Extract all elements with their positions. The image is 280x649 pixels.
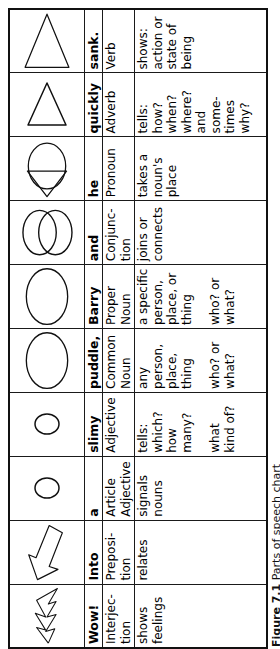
cell-word-5: Barry (85, 265, 103, 329)
cell-type-5: Proper Noun (103, 265, 135, 329)
part-of-speech-label: Common Noun (104, 332, 133, 389)
definition-text: tells: how? when? where? and some- times… (136, 76, 252, 133)
oval-icon (10, 265, 84, 328)
question-text: who? or what? (208, 268, 237, 325)
cell-icon-6 (9, 201, 85, 265)
cell-icon-8 (9, 73, 85, 137)
definition-text: a specific person, place, or thing (136, 268, 194, 325)
figure-caption-label: Figure 7.1 (270, 584, 280, 647)
table-row-part-of-speech: Interjec- tion Preposi- tion Article Adj… (103, 9, 135, 648)
small-circle-icon (10, 457, 84, 520)
cell-icon-5 (9, 265, 85, 329)
rotated-figure-wrapper: Wow! Into a slimy puddle, Barry and he q… (0, 0, 280, 649)
cell-word-0: Wow! (85, 584, 103, 648)
definition-text: any person, place, thing (136, 332, 194, 389)
arrow-icon (10, 521, 84, 584)
oval-with-arrow-icon (10, 137, 84, 200)
cell-word-4: puddle, (85, 329, 103, 393)
cell-def-6: joins or connects (135, 201, 268, 265)
cell-type-9: Verb (103, 9, 135, 73)
oval-icon (10, 329, 84, 392)
cell-word-2: a (85, 456, 103, 520)
word-label: a (86, 460, 101, 517)
lightning-bolt-icon (10, 585, 84, 647)
cell-icon-7 (9, 137, 85, 201)
parts-of-speech-table: Wow! Into a slimy puddle, Barry and he q… (8, 8, 268, 649)
definition-text: tells: which? how many? (136, 396, 194, 453)
cell-type-6: Conjunc- tion (103, 201, 135, 265)
cell-icon-9 (9, 9, 85, 73)
cell-type-1: Preposi- tion (103, 520, 135, 584)
definition-text: joins or connects (136, 204, 165, 261)
parts-of-speech-figure: Wow! Into a slimy puddle, Barry and he q… (8, 8, 255, 649)
small-triangle-icon (10, 73, 84, 136)
cell-word-3: slimy (85, 392, 103, 456)
cell-word-8: quickly (85, 73, 103, 137)
part-of-speech-label: Adjective (104, 396, 119, 453)
table-row-icons (9, 9, 85, 648)
cell-type-0: Interjec- tion (103, 584, 135, 648)
cell-type-7: Pronoun (103, 137, 135, 201)
cell-icon-3 (9, 392, 85, 456)
cell-def-5: a specific person, place, or thing who? … (135, 265, 268, 329)
part-of-speech-label: Adverb (104, 76, 119, 133)
cell-icon-2 (9, 456, 85, 520)
cell-icon-4 (9, 329, 85, 393)
part-of-speech-label: Pronoun (104, 140, 119, 197)
cell-type-2: Article Adjective (103, 456, 135, 520)
two-overlapping-circles-icon (10, 201, 84, 264)
cell-type-8: Adverb (103, 73, 135, 137)
cell-icon-1 (9, 520, 85, 584)
cell-def-7: takes a noun's place (135, 137, 268, 201)
small-circle-icon (10, 393, 84, 456)
word-label: and (86, 204, 101, 261)
cell-def-1: relates (135, 520, 268, 584)
word-label: Into (86, 524, 101, 581)
cell-type-3: Adjective (103, 392, 135, 456)
cell-def-0: shows feelings (135, 584, 268, 648)
cell-def-3: tells: which? how many? what kind of? (135, 392, 268, 456)
cell-word-1: Into (85, 520, 103, 584)
word-label: Wow! (86, 588, 101, 644)
cell-icon-0 (9, 584, 85, 648)
part-of-speech-label: Proper Noun (104, 268, 133, 325)
word-label: Barry (86, 268, 101, 325)
part-of-speech-label: Article Adjective (104, 460, 133, 517)
figure-caption-text: Parts of speech chart (270, 464, 280, 580)
word-label: puddle, (86, 332, 101, 389)
cell-word-7: he (85, 137, 103, 201)
cell-def-4: any person, place, thing who? or what? (135, 329, 268, 393)
definition-text: relates (136, 524, 151, 581)
cell-def-2: signals nouns (135, 456, 268, 520)
word-label: sank. (86, 13, 101, 69)
cell-def-9: shows: action or state of being (135, 9, 268, 73)
figure-caption: Figure 7.1 Parts of speech chart (270, 464, 280, 647)
large-triangle-icon (10, 10, 84, 72)
definition-text: shows feelings (136, 588, 165, 644)
table-row-words: Wow! Into a slimy puddle, Barry and he q… (85, 9, 103, 648)
word-label: quickly (86, 76, 101, 133)
cell-type-4: Common Noun (103, 329, 135, 393)
part-of-speech-label: Conjunc- tion (104, 204, 133, 261)
table-row-definitions: shows feelings relates signals nouns tel… (135, 9, 268, 648)
cell-word-9: sank. (85, 9, 103, 73)
question-text: what kind of? (208, 396, 237, 453)
definition-text: shows: action or state of being (136, 13, 194, 69)
question-text: who? or what? (208, 332, 237, 389)
part-of-speech-label: Verb (104, 13, 119, 69)
cell-word-6: and (85, 201, 103, 265)
part-of-speech-label: Interjec- tion (104, 588, 133, 644)
cell-def-8: tells: how? when? where? and some- times… (135, 73, 268, 137)
part-of-speech-label: Preposi- tion (104, 524, 133, 581)
definition-text: takes a noun's place (136, 140, 180, 197)
word-label: slimy (86, 396, 101, 453)
word-label: he (86, 140, 101, 197)
definition-text: signals nouns (136, 460, 165, 517)
